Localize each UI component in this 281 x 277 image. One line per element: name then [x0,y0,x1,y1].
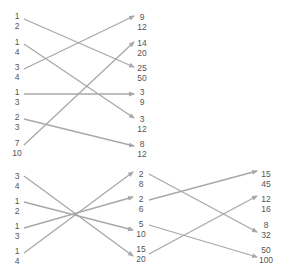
denominator: 45 [261,179,270,189]
denominator: 100 [259,255,273,265]
fraction-label: 710 [12,138,21,158]
numerator: 1 [15,37,20,47]
numerator: 3 [15,171,20,181]
denominator: 4 [15,72,20,82]
denominator: 20 [136,254,145,264]
fraction-label: 832 [261,220,270,240]
numerator: 1 [15,196,20,206]
fraction-label: 39 [140,87,145,107]
numerator: 14 [137,38,146,48]
fraction-label: 2550 [137,63,146,83]
arrow-line [24,44,134,118]
denominator: 12 [137,149,146,159]
arrow-line [149,171,257,200]
fraction-label: 1520 [136,244,145,264]
denominator: 6 [139,204,144,214]
fraction-label: 1420 [137,38,146,58]
numerator: 8 [264,220,269,230]
numerator: 1 [15,87,20,97]
fraction-label: 12 [15,196,20,216]
denominator: 12 [137,22,146,32]
fraction-label: 912 [137,12,146,32]
denominator: 10 [12,148,21,158]
numerator: 15 [261,169,270,179]
arrow-line [149,174,257,232]
numerator: 25 [137,63,146,73]
denominator: 16 [261,204,270,214]
fraction-label: 28 [139,169,144,189]
denominator: 3 [15,231,20,241]
fraction-label: 312 [137,114,146,134]
denominator: 9 [140,97,145,107]
numerator: 3 [15,62,20,72]
fraction-label: 14 [15,37,20,57]
numerator: 1 [15,11,20,21]
numerator: 1 [15,221,20,231]
numerator: 3 [140,87,145,97]
arrow-line [24,202,133,230]
denominator: 4 [15,256,20,266]
arrow-line [24,119,134,146]
denominator: 4 [15,181,20,191]
arrow-line [24,172,133,253]
fraction-label: 13 [15,87,20,107]
arrow-line [149,225,257,257]
fraction-label: 14 [15,246,20,266]
fraction-label: 50100 [259,245,273,265]
denominator: 3 [15,122,20,132]
numerator: 12 [261,194,270,204]
denominator: 50 [137,73,146,83]
fraction-label: 26 [139,194,144,214]
denominator: 12 [137,124,146,134]
denominator: 3 [15,97,20,107]
denominator: 20 [137,48,146,58]
numerator: 2 [139,194,144,204]
fraction-label: 34 [15,62,20,82]
fraction-label: 34 [15,171,20,191]
numerator: 15 [136,244,145,254]
denominator: 32 [261,230,270,240]
fraction-label: 812 [137,139,146,159]
fraction-label: 1545 [261,169,270,189]
fraction-label: 23 [15,112,20,132]
denominator: 2 [15,21,20,31]
numerator: 5 [139,219,144,229]
arrow-line [24,16,134,69]
numerator: 2 [15,112,20,122]
denominator: 10 [136,229,145,239]
numerator: 9 [140,12,145,22]
numerator: 2 [139,169,144,179]
fraction-label: 1216 [261,194,270,214]
numerator: 7 [15,138,20,148]
numerator: 3 [140,114,145,124]
arrow-line [149,196,257,254]
numerator: 50 [261,245,270,255]
fraction-label: 13 [15,221,20,241]
numerator: 8 [140,139,145,149]
denominator: 4 [15,47,20,57]
numerator: 1 [15,246,20,256]
fraction-label: 12 [15,11,20,31]
denominator: 8 [139,179,144,189]
denominator: 2 [15,206,20,216]
fraction-label: 510 [136,219,145,239]
